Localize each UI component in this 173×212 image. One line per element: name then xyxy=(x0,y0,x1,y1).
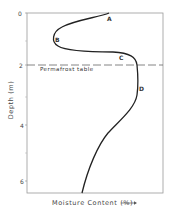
point-label-a: A xyxy=(107,15,112,22)
moisture-curve xyxy=(53,13,137,193)
y-axis-label: Depth (m) xyxy=(7,81,15,120)
moisture-depth-chart: 0 2 4 6 Depth (m) Permafrost table A B C… xyxy=(0,0,173,212)
permafrost-table-label: Permafrost table xyxy=(40,66,94,72)
plot-frame xyxy=(27,13,163,193)
point-label-d: D xyxy=(139,85,144,92)
y-tick-4: 4 xyxy=(20,122,24,129)
y-tick-6: 6 xyxy=(20,178,24,185)
y-tick-0: 0 xyxy=(18,10,22,17)
point-label-c: C xyxy=(119,54,124,61)
point-label-b: B xyxy=(55,36,60,43)
y-tick-2: 2 xyxy=(19,62,23,69)
